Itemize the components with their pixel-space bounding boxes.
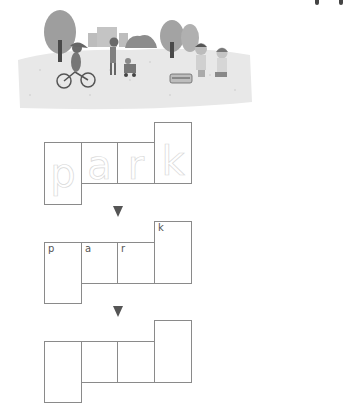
letter-box-short[interactable]: r <box>117 242 155 284</box>
letter-box-tall-descender[interactable]: p <box>44 142 82 205</box>
letter-box-short[interactable] <box>81 341 118 383</box>
letter-box-tall-descender[interactable]: p <box>44 242 82 304</box>
hint-letter: k <box>158 223 164 233</box>
down-arrow-icon <box>113 306 123 317</box>
letter-box-short[interactable]: a <box>81 242 118 284</box>
trace-letter: p <box>45 153 81 193</box>
letter-box-short[interactable]: r <box>117 142 155 184</box>
letter-box-short[interactable] <box>117 341 155 383</box>
down-arrow-icon <box>113 206 123 217</box>
hint-letter: r <box>121 244 125 254</box>
letter-box-short[interactable]: a <box>81 142 118 184</box>
letter-box-tall-ascender[interactable]: k <box>154 122 192 184</box>
letter-box-tall-descender[interactable] <box>44 341 82 403</box>
letter-box-tall-ascender[interactable]: k <box>154 221 192 284</box>
trace-letter: a <box>82 145 117 185</box>
park-illustration <box>0 0 260 112</box>
hint-letter: p <box>48 244 54 254</box>
cut-off-glyph <box>315 0 319 5</box>
trace-letter: k <box>155 141 191 181</box>
trace-letter: r <box>118 145 154 185</box>
letter-box-tall-ascender[interactable] <box>154 320 192 383</box>
cut-off-glyph <box>339 0 343 5</box>
hint-letter: a <box>85 244 91 254</box>
